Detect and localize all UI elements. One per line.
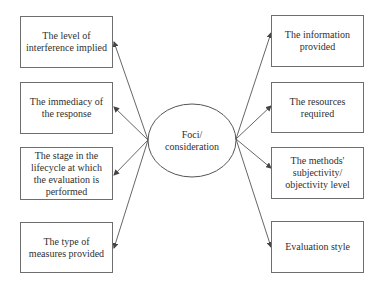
node-label: The type of measures provided [29,236,104,260]
node-interference-level: The level of interference implied [20,16,113,68]
center-node: Foci/ consideration [148,104,236,177]
node-lifecycle-stage: The stage in the lifecycle at which the … [20,147,113,200]
node-label: Evaluation style [285,241,350,253]
node-label: The methods' subjectivity/ objectivity l… [285,155,350,191]
diagram-canvas: Foci/ consideration The level of interfe… [0,0,381,287]
node-label: The resources required [290,96,346,120]
node-resources-required: The resources required [271,82,364,133]
arrow-to-evaluation-style [236,139,271,247]
arrow-to-interference [114,42,148,140]
node-label: The stage in the lifecycle at which the … [31,150,102,198]
arrow-to-methods-subjectivity [236,139,271,168]
arrow-to-measures-type [114,140,148,248]
node-label: The information provided [285,29,350,53]
node-methods-subjectivity: The methods' subjectivity/ objectivity l… [271,147,364,199]
node-label: The immediacy of the response [30,96,103,120]
node-evaluation-style: Evaluation style [271,221,364,273]
node-measures-type: The type of measures provided [20,222,113,273]
node-label: The level of interference implied [26,30,107,54]
arrow-to-immediacy [114,107,148,140]
center-node-label: Foci/ consideration [165,129,219,153]
node-response-immediacy: The immediacy of the response [20,82,113,134]
node-information-provided: The information provided [271,15,364,67]
